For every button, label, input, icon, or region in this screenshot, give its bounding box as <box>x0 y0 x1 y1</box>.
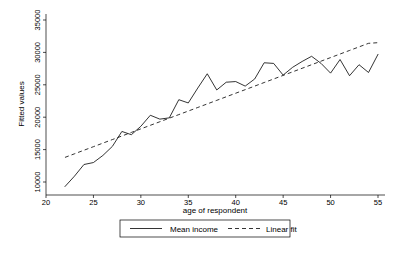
chart-container: 100001500020000250003000035000 202530354… <box>0 0 402 253</box>
y-tick-label: 35000 <box>33 10 42 31</box>
x-tick-label: 55 <box>374 198 382 207</box>
y-tick-label: 20000 <box>33 107 42 128</box>
legend-label-mean-income: Mean income <box>170 225 219 234</box>
legend-label-linear-fit: Linear fit <box>266 225 297 234</box>
chart-background <box>0 0 402 253</box>
x-tick-label: 25 <box>89 198 97 207</box>
x-tick-label: 30 <box>137 198 145 207</box>
fitted-values-line-chart: 100001500020000250003000035000 202530354… <box>0 0 402 253</box>
x-tick-label: 45 <box>279 198 287 207</box>
y-tick-label: 30000 <box>33 42 42 63</box>
chart-legend: Mean income Linear fit <box>120 220 297 237</box>
y-tick-label: 15000 <box>33 139 42 160</box>
y-tick-label: 25000 <box>33 74 42 95</box>
y-axis-title: Fitted values <box>17 81 26 126</box>
y-tick-label: 10000 <box>33 172 42 193</box>
x-tick-label: 20 <box>42 198 50 207</box>
x-tick-label: 50 <box>326 198 334 207</box>
x-axis-title: age of respondent <box>183 206 248 215</box>
